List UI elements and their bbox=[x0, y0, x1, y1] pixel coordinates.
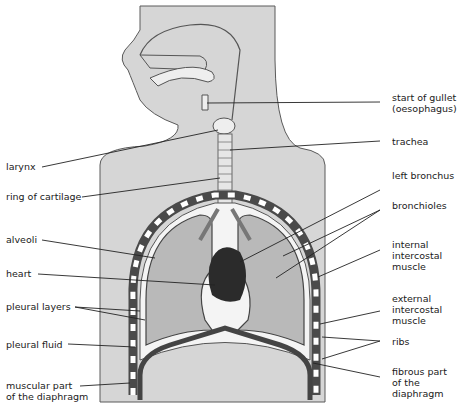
gullet bbox=[202, 95, 208, 110]
larynx-shape bbox=[213, 118, 235, 134]
label-heart: heart bbox=[6, 268, 31, 279]
label-alveoli: alveoli bbox=[6, 234, 37, 245]
label-larynx: larynx bbox=[6, 161, 36, 172]
label-ring-of-cartilage: ring of cartilage bbox=[6, 191, 81, 202]
label-fibrous-diaphragm: fibrous part of the diaphragm bbox=[392, 366, 447, 399]
label-pleural-layers: pleural layers bbox=[6, 301, 71, 312]
label-left-bronchus: left bronchus bbox=[392, 170, 454, 181]
label-gullet: start of gullet (oesophagus) bbox=[392, 92, 457, 114]
label-muscular-diaphragm: muscular part of the diaphragm bbox=[6, 380, 88, 402]
respiratory-system-diagram bbox=[0, 0, 459, 411]
label-pleural-fluid: pleural fluid bbox=[6, 339, 63, 350]
label-external-intercostal: external intercostal muscle bbox=[392, 293, 442, 326]
label-ribs: ribs bbox=[392, 336, 410, 347]
heart-shape bbox=[209, 247, 247, 301]
label-bronchioles: bronchioles bbox=[392, 200, 447, 211]
label-trachea: trachea bbox=[392, 136, 428, 147]
label-internal-intercostal: internal intercostal muscle bbox=[392, 239, 442, 272]
